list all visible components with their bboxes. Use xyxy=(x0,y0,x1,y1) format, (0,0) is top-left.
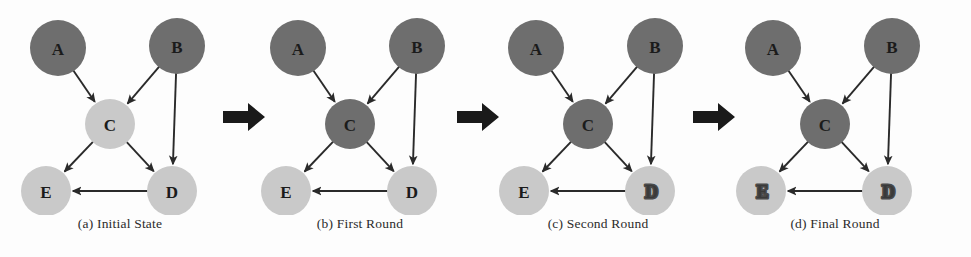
node-a: A xyxy=(270,20,326,76)
node-a-label: A xyxy=(530,40,543,59)
edge-a-to-c xyxy=(551,69,573,101)
panel-a-caption: (a) Initial State xyxy=(0,216,240,232)
node-d-label: D xyxy=(406,183,418,202)
node-e-label: E xyxy=(518,183,529,202)
node-c-label: C xyxy=(344,116,356,135)
node-e: E xyxy=(261,166,311,215)
edge-c-to-e xyxy=(65,141,94,172)
edge-c-to-e xyxy=(780,141,809,172)
node-a: A xyxy=(30,20,86,76)
node-c: C xyxy=(325,99,375,149)
right-arrow-icon-shape xyxy=(693,103,735,131)
right-arrow-icon xyxy=(692,100,736,134)
edge-a-to-c xyxy=(788,69,810,101)
node-a-label: A xyxy=(767,40,780,59)
node-a-label: A xyxy=(52,40,65,59)
right-arrow-icon-shape xyxy=(457,103,499,131)
node-a: A xyxy=(508,20,564,76)
node-b: B xyxy=(864,18,920,74)
node-c: C xyxy=(85,99,135,149)
node-d: D xyxy=(625,166,675,215)
edge-c-to-e xyxy=(543,141,572,172)
node-b: B xyxy=(627,18,683,74)
panel-c-caption: (c) Second Round xyxy=(478,216,718,232)
panel-d: ABCED(d) Final Round xyxy=(715,0,955,257)
right-arrow-icon xyxy=(222,100,266,134)
edge-c-to-d xyxy=(366,141,394,171)
separator-arrow-2 xyxy=(456,100,500,134)
graph-rounds-figure: ABCED(a) Initial StateABCED(b) First Rou… xyxy=(0,0,971,257)
right-arrow-icon-shape xyxy=(223,103,265,131)
node-e: E xyxy=(21,166,71,215)
panel-b-graph: ABCED xyxy=(240,0,480,215)
edge-b-to-d xyxy=(651,72,654,164)
edge-b-to-c xyxy=(606,66,638,104)
edge-c-to-e xyxy=(305,141,334,172)
edge-b-to-c xyxy=(368,66,400,104)
node-e: E xyxy=(499,166,549,215)
edge-c-to-d xyxy=(604,141,632,171)
panel-c: ABCED(c) Second Round xyxy=(478,0,718,257)
node-b: B xyxy=(149,18,205,74)
panel-b-caption: (b) First Round xyxy=(240,216,480,232)
panel-c-graph: ABCED xyxy=(478,0,718,215)
edge-b-to-d xyxy=(413,72,416,164)
separator-arrow-3 xyxy=(692,100,736,134)
edge-b-to-c xyxy=(128,66,160,104)
node-d: D xyxy=(862,166,912,215)
node-e-label: E xyxy=(40,183,51,202)
node-e: E xyxy=(736,166,786,215)
separator-arrow-1 xyxy=(222,100,266,134)
panel-d-graph: ABCED xyxy=(715,0,955,215)
node-c: C xyxy=(800,99,850,149)
panel-a-graph: ABCED xyxy=(0,0,240,215)
panel-b: ABCED(b) First Round xyxy=(240,0,480,257)
edge-c-to-d xyxy=(126,141,154,171)
node-a: A xyxy=(745,20,801,76)
node-e-label: E xyxy=(280,183,291,202)
node-b-label: B xyxy=(886,38,897,57)
edge-a-to-c xyxy=(73,69,95,101)
edge-a-to-c xyxy=(313,69,335,101)
node-c: C xyxy=(563,99,613,149)
node-b-label: B xyxy=(411,38,422,57)
edge-b-to-d xyxy=(888,72,891,164)
edge-b-to-c xyxy=(843,66,875,104)
node-b: B xyxy=(389,18,445,74)
node-d-label: D xyxy=(166,183,178,202)
node-d: D xyxy=(147,166,197,215)
node-a-label: A xyxy=(292,40,305,59)
right-arrow-icon xyxy=(456,100,500,134)
node-b-label: B xyxy=(171,38,182,57)
node-b-label: B xyxy=(649,38,660,57)
edge-c-to-d xyxy=(841,141,869,171)
node-d: D xyxy=(387,166,437,215)
panel-d-caption: (d) Final Round xyxy=(715,216,955,232)
edge-b-to-d xyxy=(173,72,176,164)
node-c-label: C xyxy=(582,116,594,135)
node-c-label: C xyxy=(104,116,116,135)
panel-a: ABCED(a) Initial State xyxy=(0,0,240,257)
node-c-label: C xyxy=(819,116,831,135)
